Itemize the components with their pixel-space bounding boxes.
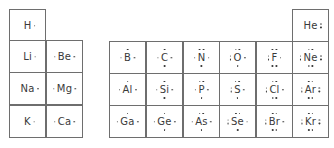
electron-dot (199, 81, 201, 83)
electron-dot (164, 129, 166, 131)
electron-dot (120, 57, 122, 59)
valence-dots-top (127, 81, 129, 83)
electron-dot (199, 113, 201, 115)
valence-dots-top (127, 49, 129, 51)
electron-dot (210, 121, 212, 123)
electron-dot (311, 97, 313, 99)
element-symbol: Kr (305, 117, 316, 127)
electron-dot (282, 89, 284, 91)
electron-dot (54, 56, 56, 58)
element-cell-o: O (219, 41, 256, 74)
element-cell-li: Li (9, 40, 46, 73)
element-symbol: Se (231, 117, 244, 127)
valence-dots-right (244, 57, 246, 59)
electron-dot (127, 81, 129, 83)
electron-dot (318, 123, 320, 125)
electron-dot (202, 113, 204, 115)
electron-dot (33, 121, 35, 123)
valence-dots-bottom (272, 129, 277, 131)
element-symbol: Si (160, 85, 170, 95)
element-symbol-text: B (124, 52, 131, 63)
valence-dots-top (272, 113, 277, 115)
element-symbol: Ga (120, 117, 134, 127)
electron-dot (239, 81, 241, 83)
element-symbol-text: S (234, 84, 241, 95)
element-symbol-text: N (198, 52, 206, 63)
element-symbol-text: Al (122, 84, 132, 95)
electron-dot (318, 119, 320, 121)
electron-dot (235, 49, 237, 51)
valence-dots-top (199, 81, 204, 83)
element-symbol-text: Na (20, 83, 34, 94)
valence-dots-right (135, 89, 137, 91)
electron-dot (272, 65, 274, 67)
element-symbol: F (272, 53, 278, 63)
valence-dots-left (53, 88, 55, 90)
valence-dots-top (164, 113, 166, 115)
valence-dots-left (153, 121, 155, 123)
element-symbol: P (198, 85, 204, 95)
element-symbol: Ar (305, 85, 316, 95)
electron-dot (74, 121, 76, 123)
electron-dot (74, 56, 76, 58)
element-cell-ne: Ne (292, 41, 329, 74)
electron-dot (319, 87, 321, 89)
electron-dot (194, 57, 196, 59)
element-symbol: Ca (58, 117, 72, 127)
element-symbol-text: As (195, 116, 207, 127)
electron-dot (34, 56, 36, 58)
electron-dot (194, 89, 196, 91)
valence-dots-left (301, 119, 303, 124)
electron-dot (239, 113, 241, 115)
electron-dot (174, 121, 176, 123)
element-symbol: O (233, 53, 241, 63)
valence-dots-bottom (164, 97, 166, 99)
valence-dots-left (268, 55, 270, 60)
element-symbol-text: Be (58, 51, 71, 62)
electron-dot (311, 49, 313, 51)
electron-dot (208, 57, 210, 59)
valence-dots-top (199, 49, 204, 51)
valence-dots-left (301, 87, 303, 92)
valence-dots-right (320, 23, 322, 28)
electron-dot (171, 57, 173, 59)
electron-dot (201, 65, 203, 67)
valence-dots-right (282, 89, 284, 91)
electron-dot (164, 113, 166, 115)
valence-dots-right (207, 89, 209, 91)
electron-dot (153, 121, 155, 123)
element-symbol-text: Li (23, 51, 32, 62)
element-cell-ga: Ga (109, 105, 146, 138)
valence-dots-left (116, 121, 118, 123)
electron-dot (311, 81, 313, 83)
electron-dot (127, 113, 129, 115)
element-symbol-text: O (233, 52, 241, 63)
element-cell-na: Na (9, 72, 46, 105)
electron-dot (308, 129, 310, 131)
valence-dots-bottom (308, 65, 313, 67)
valence-dots-right (319, 87, 321, 92)
electron-dot (276, 129, 278, 131)
element-symbol: Be (58, 52, 71, 62)
element-symbol: Al (122, 85, 132, 95)
valence-dots-top (235, 49, 240, 51)
valence-dots-right (34, 25, 36, 27)
element-cell-he: He (292, 9, 329, 42)
electron-dot (207, 89, 209, 91)
electron-dot (265, 87, 267, 89)
electron-dot (133, 57, 135, 59)
electron-dot (311, 65, 313, 67)
electron-dot (275, 81, 277, 83)
electron-dot (308, 65, 310, 67)
element-symbol-text: Mg (57, 83, 72, 94)
element-symbol: Na (20, 84, 34, 94)
electron-dot (164, 81, 166, 83)
valence-dots-left (54, 56, 56, 58)
element-symbol-text: Ne (303, 52, 317, 63)
element-symbol: Ne (303, 53, 317, 63)
valence-dots-right (172, 89, 174, 91)
electron-dot (75, 88, 77, 90)
electron-dot (116, 121, 118, 123)
element-symbol-text: Ca (58, 116, 72, 127)
valence-dots-top (308, 81, 313, 83)
